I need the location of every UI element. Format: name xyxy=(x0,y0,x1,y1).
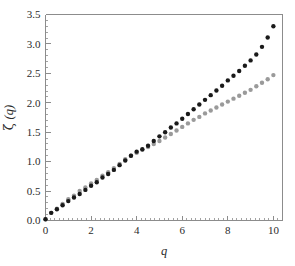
data-point xyxy=(265,35,269,39)
series-gray-points xyxy=(43,73,275,222)
x-axis-label: q xyxy=(161,244,167,258)
data-point xyxy=(100,175,104,179)
y-tick-label: 3.5 xyxy=(27,8,41,20)
data-point xyxy=(186,112,190,116)
x-axis-tick-labels: 0246810 xyxy=(43,224,280,236)
data-point xyxy=(55,207,59,211)
data-point xyxy=(191,118,195,122)
data-point xyxy=(146,144,150,148)
data-point xyxy=(209,108,213,112)
y-tick-label: 2.5 xyxy=(27,67,41,79)
y-tick-label: 0.0 xyxy=(27,214,41,226)
data-point xyxy=(77,192,81,196)
data-point xyxy=(152,139,156,143)
data-point xyxy=(60,203,64,207)
data-point xyxy=(231,74,235,78)
data-point xyxy=(123,158,127,162)
data-point xyxy=(174,128,178,132)
data-point xyxy=(271,73,275,77)
data-point xyxy=(260,45,264,49)
data-point xyxy=(214,88,218,92)
data-point xyxy=(237,69,241,73)
x-tick-label: 0 xyxy=(43,224,49,236)
data-point xyxy=(226,99,230,103)
y-axis-tick-labels: 0.00.51.01.52.02.53.03.5 xyxy=(27,8,41,226)
data-point xyxy=(237,94,241,98)
data-point xyxy=(186,121,190,125)
data-point xyxy=(248,88,252,92)
data-point xyxy=(203,98,207,102)
data-point xyxy=(243,64,247,68)
data-point xyxy=(174,121,178,125)
data-point xyxy=(254,52,258,56)
x-tick-label: 10 xyxy=(268,224,280,236)
data-point xyxy=(83,188,87,192)
data-point xyxy=(265,77,269,81)
data-point xyxy=(134,149,138,153)
y-tick-label: 0.5 xyxy=(27,185,41,197)
y-tick-label: 2.0 xyxy=(27,97,41,109)
data-point xyxy=(66,199,70,203)
data-point xyxy=(220,84,224,88)
data-point xyxy=(191,107,195,111)
data-point xyxy=(117,163,121,167)
y-tick-label: 1.0 xyxy=(27,155,41,167)
y-axis-ticks xyxy=(46,15,51,221)
x-axis-label-text: q xyxy=(161,244,167,258)
data-point xyxy=(140,147,144,151)
data-point xyxy=(180,125,184,129)
data-point xyxy=(209,93,213,97)
data-point xyxy=(248,58,252,62)
x-tick-label: 2 xyxy=(88,224,94,236)
data-point xyxy=(95,180,99,184)
data-point xyxy=(89,184,93,188)
data-point xyxy=(72,195,76,199)
x-axis-ticks xyxy=(46,216,283,221)
y-tick-label: 3.0 xyxy=(27,38,41,50)
data-point xyxy=(231,96,235,100)
data-point xyxy=(203,111,207,115)
data-point xyxy=(129,154,133,158)
data-point xyxy=(106,172,110,176)
x-tick-label: 8 xyxy=(225,224,231,236)
data-point xyxy=(157,139,161,143)
data-point xyxy=(157,134,161,138)
y-axis-label-text: ζ (q) xyxy=(1,105,16,130)
data-point xyxy=(260,81,264,85)
data-point xyxy=(271,24,275,28)
data-point xyxy=(112,168,116,172)
y-axis-label: ζ (q) xyxy=(1,105,16,130)
chart-figure: 0246810 0.00.51.01.52.02.53.03.5 q ζ (q) xyxy=(0,0,295,266)
data-point xyxy=(169,132,173,136)
data-point xyxy=(180,116,184,120)
y-tick-label: 1.5 xyxy=(27,126,41,138)
data-point xyxy=(214,105,218,109)
data-point xyxy=(254,84,258,88)
data-point xyxy=(197,102,201,106)
data-point xyxy=(49,211,53,215)
data-point xyxy=(220,102,224,106)
x-tick-label: 4 xyxy=(134,224,140,236)
x-tick-label: 6 xyxy=(179,224,185,236)
data-point xyxy=(43,217,47,221)
data-point xyxy=(197,115,201,119)
data-point xyxy=(169,125,173,129)
data-point xyxy=(163,135,167,139)
data-point xyxy=(163,130,167,134)
scatter-plot-canvas: 0246810 0.00.51.01.52.02.53.03.5 q ζ (q) xyxy=(0,0,295,266)
data-point xyxy=(243,91,247,95)
data-point xyxy=(226,78,230,82)
